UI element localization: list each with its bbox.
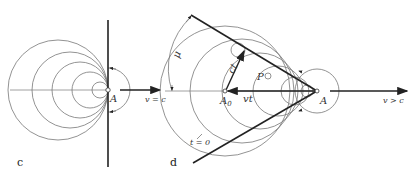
origin-a0-label: A0 — [219, 95, 232, 108]
diagram-canvas: A v = c c μ ct P A0 vt — [0, 0, 418, 175]
arc-arrow-bottom — [110, 111, 116, 112]
angle-mu-label: μ — [170, 49, 183, 59]
source-point — [315, 89, 319, 93]
origin-point — [223, 89, 227, 93]
circle-t0-label: t = 0 — [190, 138, 210, 147]
point-a-label: A — [319, 95, 327, 106]
panel-c: A v = c c — [8, 20, 166, 169]
velocity-label: v > c — [383, 96, 404, 105]
point-p-label: P — [256, 71, 264, 82]
point-a-label: A — [109, 93, 117, 104]
point-p-marker — [265, 73, 271, 79]
distance-vt-label: vt — [243, 93, 254, 104]
panel-label: d — [170, 156, 177, 169]
panel-label: c — [17, 156, 23, 169]
mach-cone-top — [191, 15, 317, 91]
mach-cone-bottom — [193, 91, 317, 163]
source-point — [106, 88, 110, 92]
arc-arrow-top — [110, 68, 116, 69]
velocity-label: v = c — [145, 95, 166, 104]
radius-ct-label: ct — [225, 61, 239, 75]
panel-d: μ ct P A0 vt A v > c t = 0 d — [160, 15, 407, 169]
